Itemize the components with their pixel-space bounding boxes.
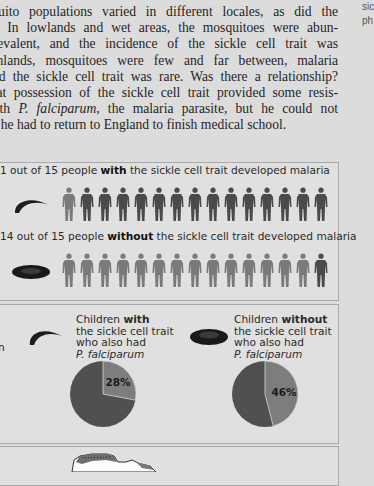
person-icon bbox=[242, 253, 256, 289]
caption-without-trait: 14 out of 15 people without the sickle c… bbox=[0, 230, 356, 242]
person-icon bbox=[152, 253, 166, 289]
pie-chart-with-trait: 28% bbox=[69, 360, 137, 428]
person-icon bbox=[206, 187, 220, 223]
species-name: P. falciparum bbox=[18, 101, 96, 116]
person-icon bbox=[98, 187, 112, 223]
body-paragraph: squito populations varied in different l… bbox=[0, 4, 338, 134]
pie-chart-without-trait: 46% bbox=[231, 360, 299, 428]
pie-label-without: Children without the sickle cell trait w… bbox=[234, 314, 332, 360]
map-panel bbox=[0, 446, 339, 486]
person-icon bbox=[260, 187, 274, 223]
sickle-cell-icon bbox=[26, 327, 64, 347]
side-note: sic ph bbox=[362, 0, 374, 28]
person-icon bbox=[296, 187, 310, 223]
text-line: prevalent, and the incidence of the sick… bbox=[0, 36, 338, 52]
pie-percent-label: 28% bbox=[105, 376, 131, 388]
person-icon bbox=[152, 187, 166, 223]
person-icon bbox=[80, 187, 94, 223]
person-icon bbox=[242, 187, 256, 223]
text-line: ighlands, mosquitoes were few and far be… bbox=[0, 53, 338, 69]
person-icon bbox=[116, 187, 130, 223]
person-icon bbox=[188, 187, 202, 223]
person-icon bbox=[224, 187, 238, 223]
text-line: that possession of the sickle cell trait… bbox=[0, 85, 338, 101]
person-icon bbox=[278, 253, 292, 289]
normal-red-cell-icon bbox=[11, 264, 51, 280]
person-icon bbox=[206, 253, 220, 289]
person-icon bbox=[314, 187, 328, 223]
pie-label-with: Children with the sickle cell trait who … bbox=[76, 314, 174, 360]
person-icon bbox=[314, 253, 328, 289]
sickle-cell-icon bbox=[12, 196, 52, 216]
text-line: squito populations varied in different l… bbox=[0, 4, 338, 20]
person-icon bbox=[80, 253, 94, 289]
text-line: se he had to return to England to finish… bbox=[0, 117, 338, 133]
person-icon bbox=[134, 187, 148, 223]
person-icon bbox=[278, 187, 292, 223]
person-icon bbox=[170, 187, 184, 223]
person-icon bbox=[170, 253, 184, 289]
person-icon bbox=[224, 253, 238, 289]
cut-off-label: n bbox=[0, 341, 5, 353]
normal-red-cell-icon bbox=[189, 327, 229, 347]
person-icon bbox=[260, 253, 274, 289]
text-line: ia. In lowlands and wet areas, the mosqu… bbox=[0, 20, 338, 36]
person-icon bbox=[188, 253, 202, 289]
person-icon bbox=[296, 253, 310, 289]
africa-map bbox=[62, 450, 162, 472]
person-icon bbox=[116, 253, 130, 289]
person-icon bbox=[62, 253, 76, 289]
person-icon bbox=[98, 253, 112, 289]
pie-percent-label: 46% bbox=[271, 386, 297, 398]
text-line: with P. falciparum, the malaria parasite… bbox=[0, 101, 338, 117]
person-icon bbox=[134, 253, 148, 289]
person-icon bbox=[62, 187, 76, 223]
text-line: and the sickle cell trait was rare. Was … bbox=[0, 69, 338, 85]
caption-with-trait: 1 out of 15 people with the sickle cell … bbox=[0, 164, 330, 176]
